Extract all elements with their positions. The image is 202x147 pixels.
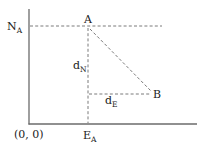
point-a-label: A [83,13,93,26]
displacement-line [90,29,151,91]
north-label: NA [7,20,23,35]
origin-label: (0, 0) [14,128,44,141]
d-n-label: dN [73,59,87,74]
d-e-label: dE [105,94,118,109]
dashed-lines [30,26,162,123]
point-b-label: B [153,88,161,101]
displacement-diagram: NA A dN B dE EA (0, 0) [0,0,202,147]
east-label: EA [83,129,97,144]
